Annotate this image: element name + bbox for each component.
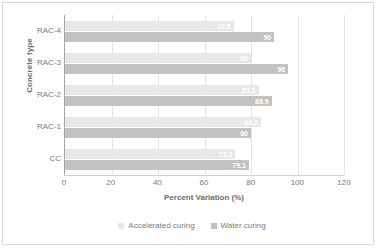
bar-accelerated-curing[interactable]: 84.2 bbox=[65, 117, 261, 127]
bar-water-curing[interactable]: 79.1 bbox=[65, 160, 249, 170]
y-axis-tick-label: RAC-3 bbox=[25, 59, 61, 67]
bar-accelerated-curing[interactable]: 72.5 bbox=[65, 21, 234, 31]
bar-row: 73.3 bbox=[65, 149, 344, 159]
bar-group: 72.590 bbox=[65, 19, 344, 43]
legend-label: Accelerated curing bbox=[128, 221, 194, 230]
bar-data-label: 83.3 bbox=[242, 86, 256, 93]
y-axis-tick-label: RAC-2 bbox=[25, 91, 61, 99]
bar-data-label: 90 bbox=[263, 33, 271, 40]
legend-item-accelerated-curing[interactable]: Accelerated curing bbox=[118, 221, 194, 230]
bar-data-label: 73.3 bbox=[219, 150, 233, 157]
bar-row: 88.9 bbox=[65, 96, 344, 106]
bar-data-label: 96 bbox=[277, 65, 285, 72]
x-axis-tick-label: 60 bbox=[200, 178, 209, 187]
bar-accelerated-curing[interactable]: 80 bbox=[65, 53, 251, 63]
x-axis-tick-label: 0 bbox=[62, 178, 66, 187]
bar-groups: 72.590809683.388.984.28073.379.1 bbox=[65, 15, 344, 175]
bar-row: 90 bbox=[65, 32, 344, 42]
bar-data-label: 72.5 bbox=[217, 22, 231, 29]
x-axis-tick-label: 80 bbox=[246, 178, 255, 187]
y-axis-tick-labels: RAC-4RAC-3RAC-2RAC-1CC bbox=[25, 15, 61, 175]
bar-group: 8096 bbox=[65, 51, 344, 75]
bar-water-curing[interactable]: 80 bbox=[65, 128, 251, 138]
bar-accelerated-curing[interactable]: 73.3 bbox=[65, 149, 235, 159]
bar-water-curing[interactable]: 88.9 bbox=[65, 96, 272, 106]
bar-group: 73.379.1 bbox=[65, 147, 344, 171]
chart-frame: Concrete type RAC-4RAC-3RAC-2RAC-1CC 72.… bbox=[2, 2, 374, 245]
bar-row: 96 bbox=[65, 64, 344, 74]
x-axis-tick-label: 120 bbox=[337, 178, 350, 187]
gridline bbox=[344, 15, 345, 175]
bar-accelerated-curing[interactable]: 83.3 bbox=[65, 85, 259, 95]
x-axis-tick-label: 20 bbox=[106, 178, 115, 187]
bar-row: 84.2 bbox=[65, 117, 344, 127]
legend-swatch-icon bbox=[118, 223, 124, 229]
x-axis-tick-labels: 020406080100120 bbox=[64, 178, 344, 190]
plot-area: 72.590809683.388.984.28073.379.1 bbox=[64, 15, 344, 175]
legend-label: Water curing bbox=[221, 221, 266, 230]
bar-data-label: 88.9 bbox=[255, 97, 269, 104]
legend-swatch-icon bbox=[211, 223, 217, 229]
bar-data-label: 84.2 bbox=[244, 118, 258, 125]
bar-water-curing[interactable]: 96 bbox=[65, 64, 288, 74]
x-axis-tick-label: 40 bbox=[153, 178, 162, 187]
bar-data-label: 79.1 bbox=[232, 161, 246, 168]
bar-row: 79.1 bbox=[65, 160, 344, 170]
y-axis-tick-label: RAC-4 bbox=[25, 27, 61, 35]
bar-group: 83.388.9 bbox=[65, 83, 344, 107]
bar-group: 84.280 bbox=[65, 115, 344, 139]
x-axis-line bbox=[64, 175, 344, 176]
x-axis-tick-label: 100 bbox=[291, 178, 304, 187]
bar-data-label: 80 bbox=[240, 54, 248, 61]
bar-data-label: 80 bbox=[240, 129, 248, 136]
bar-row: 83.3 bbox=[65, 85, 344, 95]
y-axis-tick-label: RAC-1 bbox=[25, 123, 61, 131]
y-axis-tick-label: CC bbox=[25, 155, 61, 163]
x-axis-title: Percent Variation (%) bbox=[64, 193, 344, 202]
legend-item-water-curing[interactable]: Water curing bbox=[211, 221, 266, 230]
chart-legend: Accelerated curingWater curing bbox=[3, 221, 378, 230]
bar-row: 80 bbox=[65, 128, 344, 138]
bar-water-curing[interactable]: 90 bbox=[65, 32, 274, 42]
bar-row: 72.5 bbox=[65, 21, 344, 31]
bar-row: 80 bbox=[65, 53, 344, 63]
